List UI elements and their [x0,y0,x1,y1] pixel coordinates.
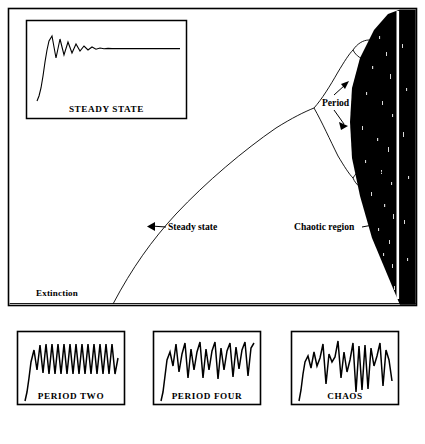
steady-state-label: Steady state [168,221,218,232]
period-three-window [397,11,400,299]
main-panel: STEADY STATE Period two Steady state [9,9,417,306]
period-two-panel: PERIOD TWO [18,332,125,405]
inset-label: STEADY STATE [69,104,144,114]
figure-canvas: STEADY STATE Period two Steady state [0,0,425,444]
period-four-panel-label: PERIOD FOUR [172,391,243,401]
period-two-label: Period two [322,97,367,108]
bifurcation-figure: STEADY STATE Period two Steady state [0,0,425,444]
extinction-label: Extinction [36,288,78,298]
chaotic-region-label: Chaotic region [294,221,355,232]
steady-state-inset: STEADY STATE [27,21,187,119]
chaos-panel-label: CHAOS [327,391,363,401]
period-four-panel: PERIOD FOUR [154,332,261,405]
chaos-panel: CHAOS [292,332,399,405]
period-two-panel-label: PERIOD TWO [38,391,104,401]
